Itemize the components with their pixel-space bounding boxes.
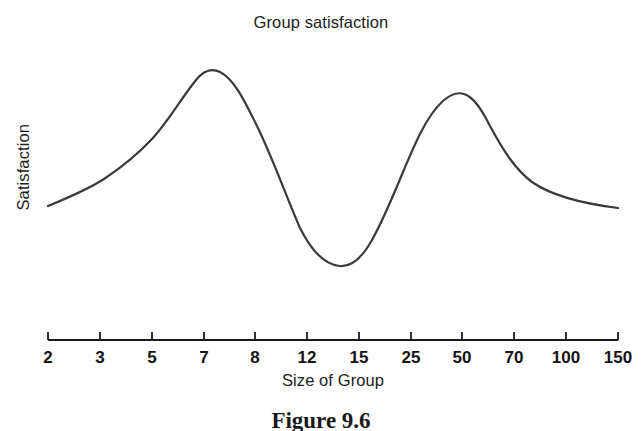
x-tick-label: 15 xyxy=(350,349,369,366)
x-tick-label: 3 xyxy=(95,349,104,366)
satisfaction-curve xyxy=(48,70,618,266)
figure-container: Group satisfaction Satisfaction Size of … xyxy=(0,0,642,431)
x-tick-label: 25 xyxy=(402,349,421,366)
x-tick-label: 12 xyxy=(298,349,317,366)
x-tick-label: 7 xyxy=(199,349,208,366)
x-tick-label: 5 xyxy=(147,349,156,366)
x-axis-ticks xyxy=(48,332,618,340)
x-axis xyxy=(48,332,618,340)
x-tick-label: 8 xyxy=(250,349,259,366)
x-tick-label: 150 xyxy=(604,349,632,366)
chart-title: Group satisfaction xyxy=(0,13,642,32)
x-axis-title: Size of Group xyxy=(48,371,618,390)
plot-area xyxy=(48,70,618,266)
x-tick-label: 50 xyxy=(453,349,472,366)
y-axis-title: Satisfaction xyxy=(14,165,33,211)
x-tick-label: 100 xyxy=(552,349,580,366)
x-tick-label: 2 xyxy=(43,349,52,366)
x-tick-label: 70 xyxy=(505,349,524,366)
figure-caption: Figure 9.6 xyxy=(0,408,642,431)
